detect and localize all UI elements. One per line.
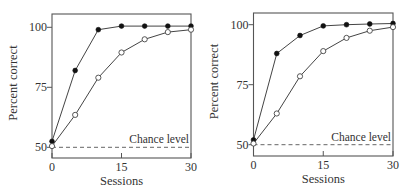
y-tick-label: 100	[231, 18, 249, 32]
y-tick-label: 50	[35, 140, 47, 154]
filled-circle-marker	[321, 24, 326, 29]
open-circle-marker	[165, 29, 170, 34]
x-tick-label: 0	[49, 160, 55, 174]
y-axis-title: Percent correct	[207, 43, 221, 119]
filled-circle-marker	[344, 22, 349, 27]
open-circle-marker	[49, 144, 54, 149]
open-circle-marker	[297, 74, 302, 79]
series-line-open	[254, 27, 394, 143]
filled-circle-marker	[142, 24, 147, 29]
open-circle-marker	[142, 37, 147, 42]
open-circle-marker	[321, 49, 326, 54]
filled-circle-marker	[119, 24, 124, 29]
x-axis-title: Sessions	[100, 174, 143, 188]
filled-circle-marker	[50, 139, 55, 144]
open-circle-marker	[251, 141, 256, 146]
x-tick-label: 30	[387, 158, 399, 172]
open-circle-marker	[96, 75, 101, 80]
series-line-open	[52, 30, 191, 146]
y-tick-label: 100	[29, 20, 47, 34]
chart-panel-1: 507510001530SessionsPercent correctChanc…	[6, 14, 197, 188]
open-circle-marker	[73, 112, 78, 117]
open-circle-marker	[390, 25, 395, 30]
filled-circle-marker	[298, 33, 303, 38]
open-circle-marker	[274, 111, 279, 116]
chart-panel-2: 507510001530SessionsPercent correctChanc…	[207, 13, 399, 186]
y-tick-label: 75	[35, 80, 47, 94]
x-axis-title: Sessions	[302, 172, 345, 186]
chance-level-label: Chance level	[129, 133, 189, 145]
open-circle-marker	[367, 28, 372, 33]
series-line-filled	[52, 26, 191, 141]
y-axis-title: Percent correct	[6, 45, 20, 121]
x-tick-label: 30	[185, 160, 197, 174]
filled-circle-marker	[274, 51, 279, 56]
open-circle-marker	[119, 50, 124, 55]
x-tick-label: 0	[251, 158, 257, 172]
chance-level-label: Chance level	[331, 131, 391, 143]
filled-circle-marker	[73, 68, 78, 73]
open-circle-marker	[344, 35, 349, 40]
x-tick-label: 15	[317, 158, 329, 172]
filled-circle-marker	[165, 24, 170, 29]
open-circle-marker	[188, 27, 193, 32]
y-tick-label: 50	[237, 138, 249, 152]
x-tick-label: 15	[116, 160, 128, 174]
filled-circle-marker	[367, 22, 372, 27]
series-line-filled	[254, 24, 394, 140]
figure: 507510001530SessionsPercent correctChanc…	[0, 0, 409, 193]
y-tick-label: 75	[237, 78, 249, 92]
filled-circle-marker	[96, 27, 101, 32]
